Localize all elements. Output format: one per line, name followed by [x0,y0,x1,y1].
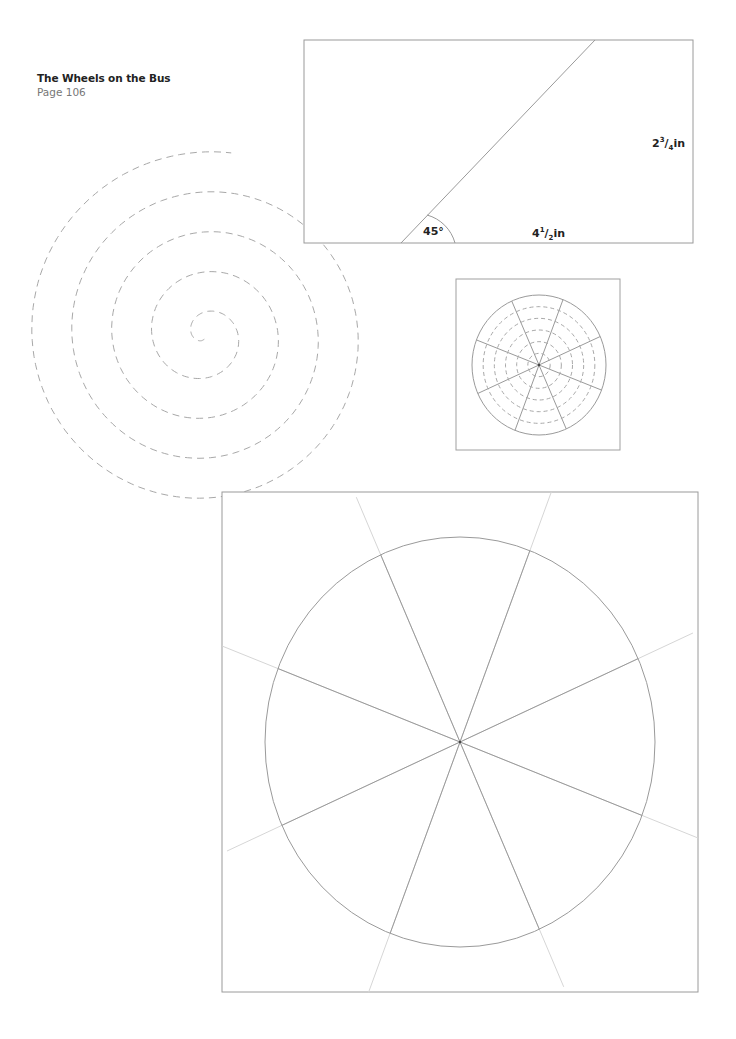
height-dimension-label: 23/4in [652,136,685,152]
large-wheel-template [222,492,698,992]
bus-rectangle-template [304,40,693,243]
angle-label: 45° [423,225,444,238]
width-dimension-label: 41/2in [532,226,565,242]
small-wheel-template [456,279,620,450]
